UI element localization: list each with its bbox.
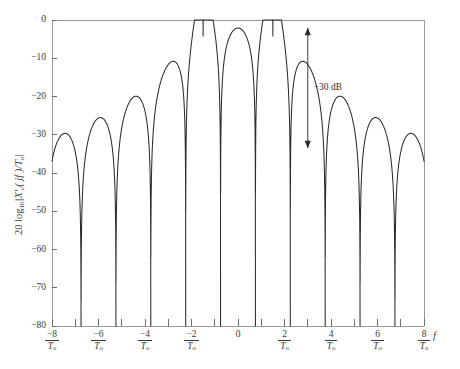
x-axis-title: f bbox=[433, 330, 436, 341]
y-axis-title: 20 log10|X'c( jf )/To| bbox=[14, 154, 25, 235]
y-tick-label: −10 bbox=[10, 53, 46, 63]
spectrum-curve bbox=[52, 20, 424, 326]
annotation-arrowhead bbox=[305, 141, 311, 149]
x-tick-label: −8To bbox=[32, 330, 72, 351]
y-tick-label: 0 bbox=[10, 15, 46, 25]
x-tick-label: 2To bbox=[265, 330, 305, 351]
x-tick-label: −4To bbox=[125, 330, 165, 351]
y-tick-label: −70 bbox=[10, 283, 46, 293]
x-tick-label: 0 bbox=[218, 330, 258, 340]
ticks-group bbox=[52, 20, 424, 326]
x-tick-label: −2To bbox=[172, 330, 212, 351]
x-tick-label: 6To bbox=[358, 330, 398, 351]
y-tick-label: −60 bbox=[10, 245, 46, 255]
axes-group bbox=[52, 20, 424, 326]
annotation-arrowhead bbox=[305, 28, 311, 36]
annotation-arrow bbox=[305, 28, 311, 148]
figure-container: 0−10−20−30−40−50−60−70−80 −8To−6To−4To−2… bbox=[0, 0, 460, 369]
x-tick-label: 4To bbox=[311, 330, 351, 351]
spectrum-plot bbox=[0, 0, 460, 369]
x-tick-label: 8To bbox=[404, 330, 444, 351]
y-tick-label: −30 bbox=[10, 130, 46, 140]
annotation-label: −30 dB bbox=[314, 82, 342, 92]
y-tick-label: −20 bbox=[10, 92, 46, 102]
x-tick-label: −6To bbox=[79, 330, 119, 351]
